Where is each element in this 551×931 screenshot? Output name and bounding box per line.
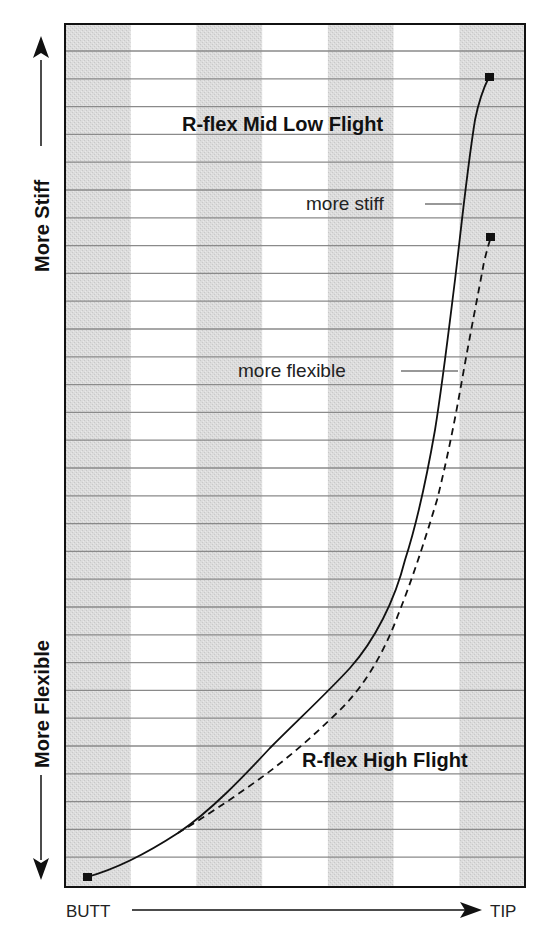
x-axis-annotation: BUTT TIP — [66, 902, 516, 921]
arrow-up-icon — [33, 36, 49, 58]
y-label-more-stiff: More Stiff — [31, 179, 53, 272]
marker-mid-low-start — [83, 873, 92, 881]
note-more-stiff: more stiff — [306, 193, 385, 214]
flex-profile-chart: R-flex Mid Low Flight more stiff more fl… — [0, 0, 551, 931]
x-label-butt: BUTT — [66, 902, 110, 921]
gray-band — [65, 24, 131, 887]
gray-band — [196, 24, 262, 887]
arrow-down-icon — [33, 858, 49, 880]
x-label-tip: TIP — [490, 902, 516, 921]
gray-band — [459, 24, 525, 887]
marker-mid-low-end — [485, 73, 494, 81]
label-high-flight: R-flex High Flight — [302, 749, 468, 771]
marker-high-end — [486, 233, 495, 241]
note-more-flexible: more flexible — [238, 360, 346, 381]
y-label-more-flexible: More Flexible — [31, 640, 53, 768]
label-mid-low-flight: R-flex Mid Low Flight — [182, 113, 383, 135]
y-axis-annotation: More Stiff More Flexible — [31, 36, 53, 880]
